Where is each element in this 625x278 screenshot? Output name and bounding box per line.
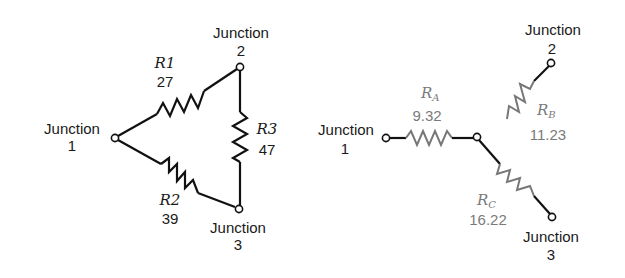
resistor-ra (389, 131, 474, 145)
wye-junction-3-node (548, 213, 555, 220)
delta-wye-diagram: Junction 1 Junction 2 Junction 3 R1 27 R… (0, 0, 625, 278)
wye-center-node (473, 133, 480, 140)
ra-name: RA (420, 84, 440, 103)
r3-name: R3 (256, 120, 278, 138)
delta-junction-3-number: 3 (234, 236, 242, 253)
delta-junction-3-label: Junction (210, 219, 266, 236)
resistor-r1 (118, 69, 237, 136)
wye-junction-1-node (382, 134, 389, 141)
delta-junction-1-number: 1 (68, 137, 76, 154)
r2-name: R2 (159, 191, 181, 209)
r1-name: R1 (154, 54, 176, 72)
delta-junction-2-node (236, 63, 243, 70)
wye-junction-1-label: Junction (318, 121, 374, 138)
wye-junction-3-label: Junction (523, 228, 579, 245)
rb-name: RB (536, 101, 556, 120)
delta-network: Junction 1 Junction 2 Junction 3 R1 27 R… (44, 24, 277, 253)
wye-junction-2-node (547, 59, 554, 66)
delta-junction-1-node (111, 134, 118, 141)
r2-value: 39 (162, 210, 179, 227)
rc-value: 16.22 (469, 211, 507, 228)
wye-network: Junction 1 Junction 2 Junction 3 RA 9.32… (318, 21, 581, 263)
wye-junction-2-label: Junction (525, 21, 581, 38)
delta-junction-2-label: Junction (213, 24, 269, 41)
r1-value: 27 (157, 73, 174, 90)
delta-junction-3-node (235, 205, 242, 212)
delta-junction-2-number: 2 (237, 42, 245, 59)
wye-junction-2-number: 2 (548, 40, 556, 57)
rb-value: 11.23 (530, 126, 566, 143)
rc-name: RC (476, 191, 496, 210)
wye-junction-3-number: 3 (547, 246, 555, 263)
r3-value: 47 (259, 141, 276, 158)
delta-junction-1-label: Junction (44, 120, 100, 137)
resistor-r3 (233, 70, 247, 206)
ra-value: 9.32 (412, 107, 441, 124)
wye-junction-1-number: 1 (341, 140, 349, 157)
